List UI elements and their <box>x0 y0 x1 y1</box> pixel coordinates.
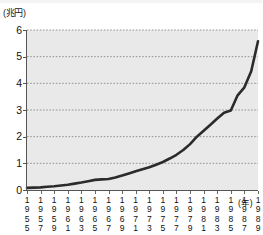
x-tick-label-1963: 1963 <box>77 196 86 234</box>
x-tick-digit: 5 <box>90 224 99 233</box>
x-tick-digit: 1 <box>63 224 72 233</box>
plot-area <box>27 30 258 190</box>
x-tick-mark-1989 <box>258 191 259 194</box>
x-tick-mark-1973 <box>149 191 150 194</box>
x-tick-digit: 5 <box>158 224 167 233</box>
y-tick-label-2: 2 <box>8 131 22 141</box>
x-tick-mark-1967 <box>109 191 110 194</box>
x-tick-label-1985: 1985 <box>226 196 235 234</box>
x-tick-label-1961: 1961 <box>63 196 72 234</box>
x-tick-digit: 5 <box>23 224 32 233</box>
x-tick-mark-1981 <box>204 191 205 194</box>
y-axis-unit-label: (兆円) <box>3 6 26 19</box>
x-tick-digit: 7 <box>240 224 249 233</box>
x-tick-digit: 1 <box>199 224 208 233</box>
x-tick-label-1973: 1973 <box>145 196 154 234</box>
x-tick-mark-1985 <box>231 191 232 194</box>
x-tick-label-1977: 1977 <box>172 196 181 234</box>
y-tick-label-1: 1 <box>8 158 22 168</box>
x-tick-label-1989: 1989 <box>254 196 263 234</box>
x-tick-label-1965: 1965 <box>90 196 99 234</box>
y-tick-label-5: 5 <box>8 51 22 61</box>
x-tick-mark-1977 <box>176 191 177 194</box>
x-tick-mark-1979 <box>190 191 191 194</box>
x-tick-digit: 3 <box>213 224 222 233</box>
x-tick-digit: 7 <box>104 224 113 233</box>
x-tick-label-1957: 1957 <box>36 196 45 234</box>
x-axis-unit-label: (年) <box>238 196 253 208</box>
x-tick-digit: 7 <box>172 224 181 233</box>
x-tick-label-1967: 1967 <box>104 196 113 234</box>
x-tick-digit: 9 <box>118 224 127 233</box>
top-edge-strip <box>0 0 262 3</box>
chart-svg <box>27 30 258 190</box>
data-series-line <box>27 41 258 188</box>
x-tick-mark-1955 <box>27 191 28 194</box>
x-tick-digit: 7 <box>36 224 45 233</box>
x-tick-label-1975: 1975 <box>158 196 167 234</box>
y-tick-mark-4 <box>23 83 27 84</box>
x-tick-label-1979: 1979 <box>186 196 195 234</box>
y-tick-label-0: 0 <box>8 185 22 195</box>
y-tick-mark-3 <box>23 110 27 111</box>
x-tick-label-1955: 1955 <box>23 196 32 234</box>
x-tick-mark-1969 <box>122 191 123 194</box>
x-tick-label-1959: 1959 <box>50 196 59 234</box>
x-tick-mark-1959 <box>54 191 55 194</box>
gridlines <box>27 30 258 163</box>
x-tick-digit: 5 <box>226 224 235 233</box>
x-tick-mark-1957 <box>41 191 42 194</box>
x-tick-label-1971: 1971 <box>131 196 140 234</box>
x-tick-mark-1975 <box>163 191 164 194</box>
x-tick-digit: 9 <box>254 224 263 233</box>
y-tick-mark-5 <box>23 57 27 58</box>
x-tick-digit: 9 <box>50 224 59 233</box>
x-tick-label-1981: 1981 <box>199 196 208 234</box>
y-tick-label-3: 3 <box>8 105 22 115</box>
x-tick-label-1969: 1969 <box>118 196 127 234</box>
x-tick-digit: 3 <box>77 224 86 233</box>
y-tick-mark-2 <box>23 137 27 138</box>
x-tick-mark-1987 <box>244 191 245 194</box>
x-tick-digit: 9 <box>186 224 195 233</box>
x-tick-mark-1961 <box>68 191 69 194</box>
x-axis-line <box>26 190 258 191</box>
y-tick-label-6: 6 <box>8 25 22 35</box>
y-tick-mark-1 <box>23 163 27 164</box>
x-tick-digit: 3 <box>145 224 154 233</box>
x-tick-mark-1983 <box>217 191 218 194</box>
chart-container: (兆円) 0123456 195519571959196119631965196… <box>0 0 262 235</box>
y-tick-mark-6 <box>23 30 27 31</box>
x-tick-mark-1963 <box>81 191 82 194</box>
y-tick-label-4: 4 <box>8 78 22 88</box>
x-tick-label-1983: 1983 <box>213 196 222 234</box>
x-tick-digit: 1 <box>131 224 140 233</box>
x-tick-mark-1965 <box>95 191 96 194</box>
x-tick-mark-1971 <box>136 191 137 194</box>
